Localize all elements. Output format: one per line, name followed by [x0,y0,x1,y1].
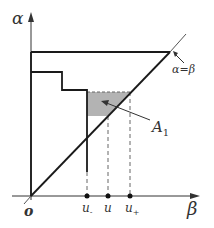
tick-label-u-minus: u- [82,201,93,217]
diagonal-label: α=β [172,63,195,76]
y-axis-label: α [12,8,24,28]
origin-label: o [24,203,33,219]
point-u-minus [85,194,90,199]
region-a1-label: A1 [150,118,169,138]
tick-label-u-plus: u+ [125,201,139,217]
x-axis-label: β [186,198,197,219]
staircase-diagram: α β o α=β A1 u- u u+ [0,0,214,228]
staircase-path [31,72,87,172]
point-u [106,194,111,199]
point-u-plus [128,194,133,199]
tick-label-u: u [104,201,112,215]
diagonal-pointer-arrow [173,51,184,63]
